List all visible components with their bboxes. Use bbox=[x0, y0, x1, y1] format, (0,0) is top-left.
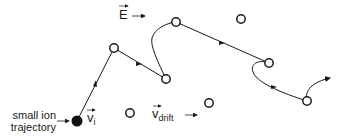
vdrift-subscript: drift bbox=[159, 113, 174, 123]
vdrift-symbol: v bbox=[152, 106, 159, 121]
vi-symbol: v bbox=[87, 110, 94, 125]
molecule-circle bbox=[110, 44, 118, 52]
annotation-line-2: trajectory bbox=[2, 121, 56, 133]
vi-subscript: i bbox=[94, 117, 96, 127]
drift-velocity-label: vdrift bbox=[152, 106, 174, 121]
ion-start-dot bbox=[72, 116, 83, 127]
molecule-circle bbox=[126, 109, 134, 117]
field-label: E bbox=[119, 7, 128, 22]
molecule-circle bbox=[172, 18, 180, 26]
molecule-circle bbox=[237, 15, 245, 23]
molecule-circle bbox=[303, 97, 311, 105]
segment-arrow-icon bbox=[219, 41, 225, 45]
trajectory-annotation: small ion trajectory bbox=[2, 109, 56, 133]
ion-velocity-label: vi bbox=[87, 110, 96, 125]
neutral-molecules bbox=[110, 15, 311, 117]
molecule-circle bbox=[265, 59, 273, 67]
segment-arrow-icon bbox=[93, 80, 97, 87]
ion-trajectory-path bbox=[77, 22, 330, 121]
molecule-circle bbox=[205, 99, 213, 107]
molecule-circle bbox=[162, 75, 170, 83]
annotation-line-1: small ion bbox=[2, 109, 56, 121]
